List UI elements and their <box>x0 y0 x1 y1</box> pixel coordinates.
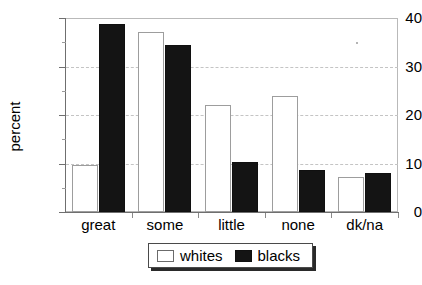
y-tick-major <box>59 18 66 19</box>
bar-whites-little <box>205 105 231 212</box>
bar-blacks-little <box>232 162 258 212</box>
y-tick-label: 30 <box>370 59 422 74</box>
legend-item-blacks[interactable]: blacks <box>235 248 301 263</box>
legend-label-whites: whites <box>180 248 223 263</box>
y-tick-minor <box>62 91 66 92</box>
y-tick-major <box>59 164 66 165</box>
bar-blacks-none <box>299 170 325 212</box>
x-tick-label: dk/na <box>325 216 405 233</box>
bar-blacks-some <box>165 45 191 212</box>
legend-label-blacks: blacks <box>258 248 301 263</box>
y-tick-major <box>59 67 66 68</box>
bar-whites-dk-na <box>338 177 364 212</box>
bar-blacks-great <box>99 24 125 212</box>
bar-chart-figure: 010203040 greatsomelittlenonedk/na perce… <box>0 0 422 285</box>
y-tick-minor <box>62 139 66 140</box>
scan-artifact-speck <box>356 42 358 44</box>
black-square-icon <box>235 250 252 262</box>
bar-blacks-dk-na <box>365 173 391 212</box>
bar-whites-none <box>272 96 298 212</box>
bar-whites-great <box>72 165 98 212</box>
y-tick-major <box>59 212 66 213</box>
chart-legend[interactable]: whites blacks <box>148 243 313 268</box>
y-tick-minor <box>62 42 66 43</box>
y-axis-title: percent <box>6 89 23 165</box>
y-tick-label: 20 <box>370 107 422 122</box>
legend-item-whites[interactable]: whites <box>157 248 223 263</box>
y-tick-minor <box>62 188 66 189</box>
white-square-icon <box>157 250 174 262</box>
figure-caption <box>60 276 390 285</box>
bar-whites-some <box>138 32 164 212</box>
y-tick-major <box>59 115 66 116</box>
x-axis-line <box>65 212 399 213</box>
y-tick-label: 10 <box>370 156 422 171</box>
y-tick-label: 40 <box>370 10 422 25</box>
